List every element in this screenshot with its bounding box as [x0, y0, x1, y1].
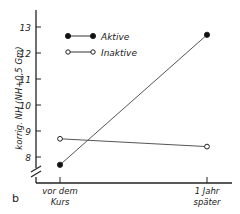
open-circle-marker: [205, 144, 210, 149]
line-chart: 8910111213 vor demKurs1 Jahrspäter korri…: [0, 0, 240, 214]
y-tick-label: 9: [25, 127, 31, 137]
open-circle-icon: [66, 50, 70, 54]
x-axis: vor demKurs1 Jahrspäter: [36, 177, 232, 207]
x-tick-label: vor dem: [42, 186, 77, 196]
y-axis-label: korrig. NH (NH+0,5 Gm): [14, 46, 24, 149]
filled-circle-marker: [57, 162, 62, 167]
filled-circle-marker: [204, 32, 209, 37]
legend-item-inaktive: Inaktive: [66, 48, 138, 58]
filled-circle-icon: [65, 33, 70, 38]
y-tick-label: 8: [25, 153, 31, 163]
filled-circle-icon: [90, 33, 95, 38]
legend-label: Inaktive: [101, 48, 137, 58]
open-circle-icon: [91, 50, 95, 54]
panel-label: b: [12, 192, 19, 205]
y-tick-label: 13: [20, 23, 32, 33]
x-tick-label: 1 Jahr: [195, 186, 220, 196]
open-circle-marker: [58, 136, 63, 141]
legend-label: Aktive: [100, 32, 130, 42]
legend: AktiveInaktive: [65, 32, 137, 58]
legend-item-aktive: Aktive: [65, 32, 129, 42]
x-tick-label: Kurs: [51, 197, 70, 207]
x-tick-label: später: [193, 197, 221, 207]
